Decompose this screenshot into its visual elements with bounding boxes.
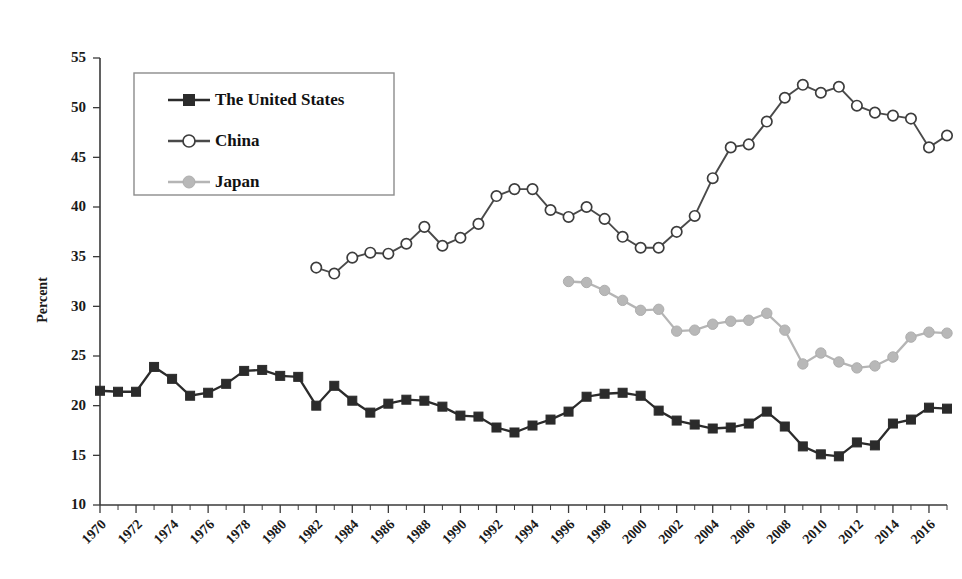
data-point-marker (816, 450, 825, 459)
y-tick-label: 40 (71, 198, 86, 214)
data-point-marker (184, 95, 195, 106)
y-axis-title: Percent (35, 277, 50, 323)
data-point-marker (852, 363, 862, 373)
data-point-marker (870, 361, 880, 371)
data-point-marker (564, 407, 573, 416)
data-point-marker (183, 135, 195, 147)
data-point-marker (834, 82, 844, 92)
data-point-marker (114, 387, 123, 396)
data-point-marker (888, 110, 898, 120)
data-point-marker (888, 352, 898, 362)
data-point-marker (599, 285, 609, 295)
data-point-marker (240, 366, 249, 375)
data-point-marker (183, 176, 195, 188)
data-point-marker (365, 247, 375, 257)
y-tick-label: 25 (71, 347, 86, 363)
legend-label: Japan (215, 172, 260, 191)
data-point-marker (852, 438, 861, 447)
data-point-marker (222, 379, 231, 388)
y-tick-label: 35 (71, 248, 86, 264)
data-point-marker (708, 424, 717, 433)
data-point-marker (420, 396, 429, 405)
data-point-marker (870, 107, 880, 117)
data-point-marker (419, 222, 429, 232)
data-point-marker (617, 232, 627, 242)
data-point-marker (671, 227, 681, 237)
data-point-marker (726, 316, 736, 326)
data-point-marker (780, 422, 789, 431)
data-point-marker (311, 262, 321, 272)
data-point-marker (546, 415, 555, 424)
data-point-marker (348, 396, 357, 405)
y-tick-label: 15 (71, 447, 86, 463)
data-point-marker (653, 304, 663, 314)
y-tick-label: 10 (71, 496, 86, 512)
y-tick-label: 20 (71, 397, 86, 413)
data-point-marker (491, 191, 501, 201)
data-point-marker (780, 325, 790, 335)
data-point-marker (438, 402, 447, 411)
data-point-marker (383, 248, 393, 258)
chart-container: 10152025303540455055 1970197219741976197… (0, 0, 962, 579)
data-point-marker (366, 408, 375, 417)
data-point-marker (581, 202, 591, 212)
data-point-marker (437, 241, 447, 251)
data-point-marker (798, 359, 808, 369)
chart-legend: The United StatesChinaJapan (134, 73, 394, 195)
data-point-marker (708, 319, 718, 329)
data-point-marker (726, 423, 735, 432)
data-point-marker (563, 276, 573, 286)
y-tick-label: 55 (71, 49, 86, 65)
data-point-marker (906, 332, 916, 342)
data-point-marker (473, 219, 483, 229)
legend-label: China (215, 131, 260, 150)
data-point-marker (509, 184, 519, 194)
data-point-marker (528, 421, 537, 430)
data-point-marker (384, 399, 393, 408)
data-point-marker (708, 173, 718, 183)
data-point-marker (456, 411, 465, 420)
data-point-marker (258, 365, 267, 374)
data-point-marker (527, 184, 537, 194)
data-point-marker (816, 88, 826, 98)
data-point-marker (168, 374, 177, 383)
data-point-marker (762, 308, 772, 318)
data-point-marker (834, 357, 844, 367)
data-point-marker (798, 442, 807, 451)
data-point-marker (653, 243, 663, 253)
y-tick-label: 45 (71, 149, 86, 165)
data-point-marker (870, 441, 879, 450)
data-point-marker (671, 326, 681, 336)
data-point-marker (744, 419, 753, 428)
data-point-marker (942, 328, 952, 338)
data-point-marker (401, 239, 411, 249)
data-point-marker (186, 391, 195, 400)
data-point-marker (636, 391, 645, 400)
data-point-marker (690, 420, 699, 429)
data-point-marker (347, 252, 357, 262)
data-point-marker (582, 392, 591, 401)
data-point-marker (402, 395, 411, 404)
data-point-marker (96, 386, 105, 395)
line-chart: 10152025303540455055 1970197219741976197… (0, 0, 962, 579)
data-point-marker (474, 412, 483, 421)
data-point-marker (276, 371, 285, 380)
data-point-marker (492, 423, 501, 432)
data-point-marker (204, 388, 213, 397)
data-point-marker (834, 452, 843, 461)
y-tick-label: 30 (71, 298, 86, 314)
data-point-marker (510, 428, 519, 437)
data-point-marker (924, 403, 933, 412)
data-point-marker (762, 407, 771, 416)
y-tick-label: 50 (71, 99, 86, 115)
data-point-marker (726, 142, 736, 152)
data-point-marker (888, 419, 897, 428)
data-point-marker (744, 139, 754, 149)
data-point-marker (780, 93, 790, 103)
data-point-marker (816, 348, 826, 358)
data-point-marker (312, 401, 321, 410)
data-point-marker (599, 214, 609, 224)
data-point-marker (132, 387, 141, 396)
data-point-marker (798, 80, 808, 90)
data-point-marker (906, 415, 915, 424)
